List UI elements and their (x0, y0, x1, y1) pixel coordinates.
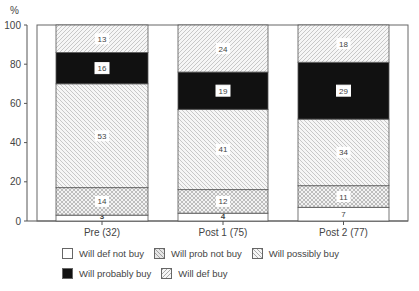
y-tick-label: 40 (10, 137, 22, 148)
legend-row: Will probably buyWill def buy (62, 263, 402, 283)
legend-item: Will prob not buy (154, 248, 242, 259)
segment-value-label: 18 (339, 40, 348, 49)
bars: 314531613412411924711342918 (56, 25, 389, 221)
x-tick-label: Pre (32) (84, 227, 120, 238)
legend-label: Will prob not buy (171, 248, 242, 259)
y-axis-label: % (10, 5, 19, 16)
segment-value-label: 19 (219, 87, 228, 96)
legend-swatch-icon (252, 248, 263, 259)
segment-value-label: 7 (341, 210, 346, 219)
y-tick-label: 20 (10, 176, 22, 187)
segment-value-label: 14 (98, 197, 107, 206)
legend-row: Will def not buyWill prob not buyWill po… (62, 243, 402, 263)
legend-swatch-icon (62, 268, 73, 279)
y-tick-label: 0 (15, 216, 21, 227)
x-tick-label: Post 2 (77) (319, 227, 368, 238)
segment-value-label: 29 (339, 87, 348, 96)
y-tick-label: 100 (4, 20, 21, 31)
legend-swatch-icon (161, 268, 172, 279)
bar-stack: 711342918 (298, 25, 389, 221)
y-tick-label: 60 (10, 98, 22, 109)
x-tick-label: Post 1 (75) (199, 227, 248, 238)
segment-value-label: 34 (339, 148, 348, 157)
x-axis: Pre (32)Post 1 (75)Post 2 (77) (84, 221, 368, 238)
legend-label: Will def buy (178, 268, 227, 279)
segment-value-label: 24 (219, 45, 228, 54)
legend-item: Will probably buy (62, 268, 151, 279)
legend: Will def not buyWill prob not buyWill po… (62, 243, 402, 283)
bar-stack: 314531613 (56, 25, 148, 221)
legend-item: Will def buy (161, 268, 227, 279)
legend-label: Will possibly buy (269, 248, 339, 259)
legend-swatch-icon (62, 248, 73, 259)
segment-value-label: 41 (219, 145, 228, 154)
segment-value-label: 11 (339, 193, 348, 202)
segment-value-label: 16 (98, 64, 107, 73)
legend-item: Will def not buy (62, 248, 144, 259)
segment-value-label: 13 (98, 35, 107, 44)
legend-item: Will possibly buy (252, 248, 339, 259)
legend-swatch-icon (154, 248, 165, 259)
bar-stack: 412411924 (178, 25, 268, 221)
y-tick-label: 80 (10, 59, 22, 70)
segment-value-label: 12 (219, 197, 228, 206)
legend-label: Will def not buy (79, 248, 144, 259)
segment-value-label: 53 (98, 132, 107, 141)
legend-label: Will probably buy (79, 268, 151, 279)
